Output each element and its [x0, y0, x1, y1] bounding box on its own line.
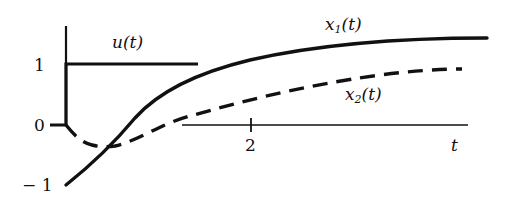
t-axis-label: t: [451, 137, 458, 154]
u-label-paren: (t): [123, 32, 143, 52]
x1-curve: [66, 38, 487, 185]
x1-label-sub: 1: [335, 23, 342, 36]
x-tick-2: 2: [245, 137, 256, 154]
u-step-curve: [50, 64, 198, 125]
u-label-main: u: [112, 32, 123, 52]
x2-label-paren: (t): [362, 84, 382, 104]
x2-curve: [66, 69, 462, 147]
y-tick-minus-1: − 1: [22, 177, 52, 194]
control-response-figure: [0, 0, 509, 200]
x1-label-main: x: [325, 14, 335, 34]
x1-label: x1(t): [325, 16, 362, 35]
x1-label-paren: (t): [342, 14, 362, 34]
y-tick-0: 0: [34, 117, 45, 134]
y-tick-1: 1: [34, 57, 45, 74]
x2-label-sub: 2: [355, 93, 362, 106]
u-label: u(t): [112, 34, 143, 51]
x2-label-main: x: [345, 84, 355, 104]
x2-label: x2(t): [345, 86, 382, 105]
